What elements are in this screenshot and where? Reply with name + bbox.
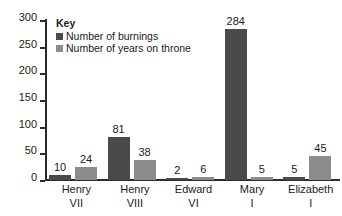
x-axis-category-label: ElizabethI xyxy=(280,182,342,210)
bar-value-label: 10 xyxy=(54,161,66,174)
bar-group: 26 xyxy=(164,20,223,180)
category-label-line1: Edward xyxy=(163,182,225,196)
y-axis-tick-label: 200 xyxy=(19,65,37,76)
bar-value-label: 81 xyxy=(112,123,124,136)
y-axis-tick-label: 250 xyxy=(19,39,37,50)
y-axis-tick-label: 100 xyxy=(19,119,37,130)
x-axis-category-label: EdwardVI xyxy=(163,182,225,210)
category-label-line1: Mary xyxy=(221,182,283,196)
bar[interactable]: 2 xyxy=(166,178,188,180)
bar[interactable]: 81 xyxy=(108,137,130,180)
y-axis-tick-label: 150 xyxy=(19,92,37,103)
y-axis-tick-mark xyxy=(40,20,45,22)
y-axis-tick-mark xyxy=(40,100,45,102)
category-label-line2: VI xyxy=(163,196,225,210)
plot-area: 10248138262845545 xyxy=(47,20,340,180)
bar-group: 545 xyxy=(281,20,340,180)
x-axis-category-label: HenryVII xyxy=(45,182,107,210)
y-axis-tick-label: 300 xyxy=(19,12,37,23)
bar-value-label: 6 xyxy=(200,163,206,176)
x-axis-category-label: HenryVIII xyxy=(104,182,166,210)
bar-group: 8138 xyxy=(106,20,165,180)
category-label-line2: I xyxy=(221,196,283,210)
y-axis-tick-mark xyxy=(40,153,45,155)
y-axis-tick-mark xyxy=(40,180,45,182)
bar-value-label: 5 xyxy=(259,163,265,176)
bar[interactable]: 24 xyxy=(75,167,97,180)
y-axis-tick-mark xyxy=(40,127,45,129)
category-label-line1: Henry xyxy=(45,182,107,196)
category-label-line2: VIII xyxy=(104,196,166,210)
bar[interactable]: 5 xyxy=(251,177,273,180)
y-axis-tick-mark xyxy=(40,47,45,49)
bar[interactable]: 6 xyxy=(192,177,214,180)
bar[interactable]: 10 xyxy=(49,175,71,180)
y-axis-tick-label: 50 xyxy=(25,145,37,156)
bar-value-label: 5 xyxy=(291,163,297,176)
category-label-line1: Elizabeth xyxy=(280,182,342,196)
y-axis-tick-mark xyxy=(40,73,45,75)
bar-group: 2845 xyxy=(223,20,282,180)
bar[interactable]: 5 xyxy=(283,177,305,180)
bar[interactable]: 45 xyxy=(309,156,331,180)
category-label-line2: I xyxy=(280,196,342,210)
bar-value-label: 2 xyxy=(174,164,180,177)
bar-value-label: 24 xyxy=(80,153,92,166)
bar-value-label: 45 xyxy=(314,142,326,155)
bar-value-label: 38 xyxy=(138,146,150,159)
bar[interactable]: 284 xyxy=(225,29,247,180)
bar-chart: 050100150200250300 Key Number of burning… xyxy=(0,0,342,216)
bar-value-label: 284 xyxy=(227,15,245,28)
category-label-line2: VII xyxy=(45,196,107,210)
y-axis-tick-label: 0 xyxy=(31,172,37,183)
category-label-line1: Henry xyxy=(104,182,166,196)
x-axis-category-label: MaryI xyxy=(221,182,283,210)
x-axis-category-labels: HenryVIIHenryVIIIEdwardVIMaryIElizabethI xyxy=(47,182,340,216)
bar[interactable]: 38 xyxy=(134,160,156,180)
bar-group: 1024 xyxy=(47,20,106,180)
